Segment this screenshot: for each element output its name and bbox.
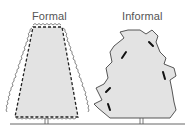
informal-hedge <box>94 30 176 124</box>
informal-trunk <box>140 118 143 124</box>
hedge-diagram <box>0 0 191 133</box>
formal-hedge <box>6 24 89 125</box>
formal-hedge-body <box>15 27 78 117</box>
